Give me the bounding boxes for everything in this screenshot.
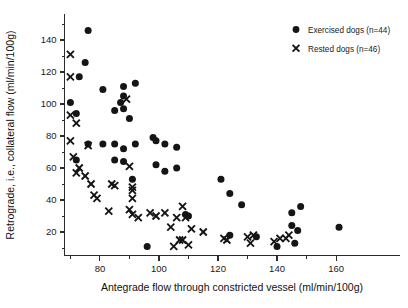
x-tick-label-100: 100: [151, 263, 167, 274]
y-tick-label-140: 140: [41, 34, 57, 45]
data-point-exercised: [153, 161, 160, 168]
data-point-exercised: [336, 224, 343, 231]
x-tick-label-160: 160: [328, 263, 344, 274]
scatter-plot-figure: 20406080100120140 80100120140160 Exercis…: [0, 0, 408, 308]
x-tick-label-140: 140: [269, 263, 285, 274]
data-point-exercised: [153, 137, 160, 144]
data-point-exercised: [217, 176, 224, 183]
data-point-exercised: [120, 145, 127, 152]
data-point-exercised: [73, 110, 80, 117]
data-point-exercised: [129, 176, 136, 183]
data-point-exercised: [85, 27, 92, 34]
data-point-exercised: [173, 165, 180, 172]
y-tick-label-20: 20: [46, 226, 57, 237]
data-point-exercised: [111, 107, 118, 114]
y-tick-label-100: 100: [41, 98, 57, 109]
data-point-exercised: [99, 86, 106, 93]
data-point-exercised: [120, 83, 127, 90]
y-tick-label-80: 80: [46, 130, 57, 141]
data-point-exercised: [132, 80, 139, 87]
x-axis-title: Antegrade flow through constricted vesse…: [101, 281, 363, 293]
data-point-exercised: [161, 168, 168, 175]
data-point-exercised: [288, 222, 295, 229]
data-point-exercised: [288, 209, 295, 216]
data-point-exercised: [82, 59, 89, 66]
data-point-exercised: [126, 115, 133, 122]
data-point-exercised: [144, 243, 151, 250]
x-tick-label-80: 80: [95, 263, 106, 274]
x-tick-label-120: 120: [210, 263, 226, 274]
data-point-exercised: [111, 141, 118, 148]
legend-label-exercised: Exercised dogs (n=44): [308, 26, 390, 35]
data-point-exercised: [294, 227, 301, 234]
data-point-exercised: [226, 190, 233, 197]
plot-canvas: 20406080100120140 80100120140160 Exercis…: [0, 0, 408, 308]
y-axis-title: Retrograde, i.e., collateral flow (ml/mi…: [4, 31, 16, 240]
data-point-exercised: [297, 203, 304, 210]
y-tick-label-60: 60: [46, 162, 57, 173]
data-point-exercised: [67, 99, 74, 106]
data-point-exercised: [120, 105, 127, 112]
data-point-exercised: [99, 141, 106, 148]
legend-label-rested: Rested dogs (n=46): [308, 45, 380, 54]
data-point-exercised: [173, 144, 180, 151]
data-point-exercised: [76, 73, 83, 80]
data-point-exercised: [132, 141, 139, 148]
y-tick-label-120: 120: [41, 66, 57, 77]
legend-marker-circle-icon: [293, 26, 300, 33]
data-point-exercised: [291, 240, 298, 247]
data-point-exercised: [238, 201, 245, 208]
y-tick-label-40: 40: [46, 194, 57, 205]
data-point-exercised: [161, 141, 168, 148]
data-point-exercised: [111, 157, 118, 164]
